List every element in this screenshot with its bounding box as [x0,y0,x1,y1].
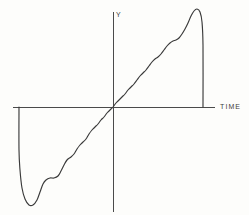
waveform-figure: TIME Y [0,0,249,215]
plot-area [0,0,249,215]
x-axis-label: TIME [220,103,241,110]
y-axis-label: Y [116,11,122,18]
